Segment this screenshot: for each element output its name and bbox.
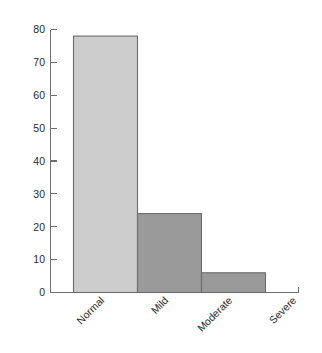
bar-chart: 0 10 20 30 40 50 60 70 80 Normal Mild Mo… bbox=[0, 0, 322, 353]
y-tick-label-70: 70 bbox=[33, 56, 45, 68]
y-tick-label-60: 60 bbox=[33, 89, 45, 101]
y-tick-label-10: 10 bbox=[33, 253, 45, 265]
x-label-mild: Mild bbox=[148, 294, 170, 316]
y-tick-label-40: 40 bbox=[33, 155, 45, 167]
y-tick-label-50: 50 bbox=[33, 122, 45, 134]
y-axis-tick-labels: 0 10 20 30 40 50 60 70 80 bbox=[33, 23, 45, 298]
y-axis-ticks bbox=[51, 30, 57, 293]
y-tick-label-20: 20 bbox=[33, 221, 45, 233]
x-label-moderate: Moderate bbox=[195, 294, 235, 334]
y-tick-label-0: 0 bbox=[39, 286, 45, 298]
x-label-severe: Severe bbox=[266, 294, 298, 326]
y-tick-label-80: 80 bbox=[33, 23, 45, 35]
x-axis-category-labels: Normal Mild Moderate Severe bbox=[74, 294, 299, 334]
chart-canvas: 0 10 20 30 40 50 60 70 80 Normal Mild Mo… bbox=[0, 0, 322, 353]
y-tick-label-30: 30 bbox=[33, 188, 45, 200]
bar-normal[interactable] bbox=[74, 36, 138, 292]
bar-group bbox=[74, 36, 266, 292]
bar-moderate[interactable] bbox=[202, 273, 266, 293]
x-label-normal: Normal bbox=[74, 294, 106, 326]
bar-mild[interactable] bbox=[138, 214, 202, 293]
